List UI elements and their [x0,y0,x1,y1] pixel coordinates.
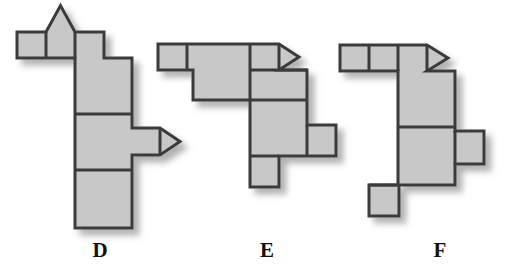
shape-D [17,6,180,229]
shape-label-e: E [247,240,287,261]
shape-E [158,44,336,187]
figure-canvas: D E F [0,0,518,274]
shape-label-f: F [420,240,460,261]
shape-D-outline [17,6,180,229]
shape-E-outline [158,44,336,187]
shape-label-d: D [80,240,120,261]
polyomino-figure-svg [0,0,518,274]
shape-F-outline [340,45,484,216]
shape-F [340,45,484,216]
